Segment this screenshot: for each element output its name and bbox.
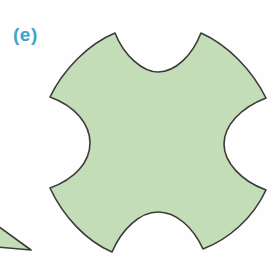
figure-panel: (e) <box>0 0 279 261</box>
figure-illustration <box>0 0 279 261</box>
panel-label: (e) <box>13 25 38 44</box>
